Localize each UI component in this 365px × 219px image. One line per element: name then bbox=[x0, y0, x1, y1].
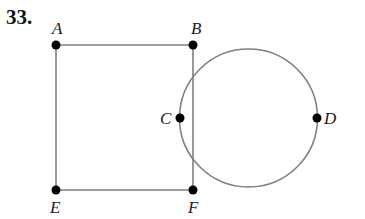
label-d: D bbox=[323, 109, 337, 128]
label-b: B bbox=[191, 19, 202, 38]
point-e bbox=[52, 186, 61, 195]
point-d bbox=[313, 114, 322, 123]
label-e: E bbox=[49, 198, 61, 217]
point-f bbox=[189, 186, 198, 195]
label-a: A bbox=[51, 19, 63, 38]
rectangle-abfe bbox=[56, 45, 193, 190]
label-f: F bbox=[187, 198, 199, 217]
point-c bbox=[176, 114, 185, 123]
label-c: C bbox=[160, 109, 172, 128]
geometry-figure: ABCDEF bbox=[0, 0, 365, 219]
circle bbox=[180, 49, 318, 187]
point-b bbox=[189, 41, 198, 50]
point-a bbox=[52, 41, 61, 50]
